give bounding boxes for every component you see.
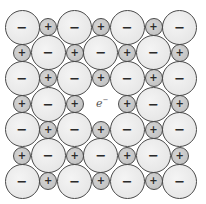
plus-sign: + (123, 48, 131, 58)
plus-sign: + (18, 99, 26, 109)
minus-sign: − (69, 123, 80, 136)
minus-sign: − (43, 98, 54, 111)
minus-sign: − (69, 21, 80, 34)
anion-circle: − (57, 164, 92, 199)
plus-sign: + (97, 73, 105, 83)
anion-circle: − (5, 164, 40, 199)
minus-sign: − (174, 123, 185, 136)
electron-label: e− (96, 96, 108, 110)
plus-sign: + (123, 99, 131, 109)
minus-sign: − (174, 72, 185, 85)
anion-circle: − (162, 112, 197, 147)
cation-circle: + (66, 44, 84, 62)
cation-circle: + (13, 95, 31, 113)
minus-sign: − (17, 123, 28, 136)
plus-sign: + (70, 99, 78, 109)
plus-sign: + (176, 48, 184, 58)
anion-circle: − (31, 35, 66, 70)
plus-sign: + (44, 73, 52, 83)
anion-circle: − (136, 138, 171, 173)
plus-sign: + (70, 48, 78, 58)
cation-circle: + (66, 147, 84, 165)
plus-sign: + (18, 48, 26, 58)
plus-sign: + (149, 125, 157, 135)
anion-circle: − (57, 112, 92, 147)
cation-circle: + (13, 44, 31, 62)
minus-sign: − (69, 72, 80, 85)
anion-circle: − (110, 10, 145, 45)
minus-sign: − (95, 149, 106, 162)
anion-circle: − (57, 10, 92, 45)
cation-circle: + (39, 121, 57, 139)
cation-circle: + (92, 18, 110, 36)
minus-sign: − (43, 149, 54, 162)
cation-circle: + (39, 18, 57, 36)
anion-circle: − (31, 138, 66, 173)
cation-circle: + (92, 69, 110, 87)
plus-sign: + (18, 151, 26, 161)
electron-charge: − (102, 96, 108, 104)
anion-circle: − (5, 112, 40, 147)
plus-sign: + (70, 151, 78, 161)
anion-circle: − (31, 87, 66, 122)
minus-sign: − (17, 175, 28, 188)
anion-circle: − (5, 10, 40, 45)
cation-circle: + (118, 95, 136, 113)
plus-sign: + (123, 151, 131, 161)
minus-sign: − (95, 46, 106, 59)
cation-circle: + (145, 172, 163, 190)
minus-sign: − (43, 46, 54, 59)
plus-sign: + (149, 73, 157, 83)
minus-sign: − (17, 21, 28, 34)
minus-sign: − (174, 21, 185, 34)
minus-sign: − (148, 46, 159, 59)
cation-circle: + (118, 44, 136, 62)
plus-sign: + (149, 22, 157, 32)
anion-circle: − (110, 112, 145, 147)
anion-circle: − (136, 87, 171, 122)
anion-circle: − (110, 61, 145, 96)
anion-circle: − (110, 164, 145, 199)
cation-circle: + (39, 172, 57, 190)
cation-circle: + (13, 147, 31, 165)
cation-circle: + (66, 95, 84, 113)
plus-sign: + (176, 151, 184, 161)
cation-circle: + (145, 18, 163, 36)
cation-circle: + (92, 172, 110, 190)
cation-circle: + (171, 44, 189, 62)
plus-sign: + (44, 22, 52, 32)
plus-sign: + (97, 22, 105, 32)
anion-circle: − (162, 164, 197, 199)
cation-circle: + (145, 69, 163, 87)
anion-circle: − (83, 35, 118, 70)
plus-sign: + (176, 99, 184, 109)
minus-sign: − (122, 175, 133, 188)
anion-circle: − (162, 61, 197, 96)
minus-sign: − (17, 72, 28, 85)
minus-sign: − (148, 98, 159, 111)
plus-sign: + (149, 176, 157, 186)
cation-circle: + (39, 69, 57, 87)
cation-circle: + (118, 147, 136, 165)
minus-sign: − (122, 72, 133, 85)
crystal-lattice-diagram: −+−+−+−+−+−+−+−+−+−+−+−+e−+−+−+−+−+−+−+−… (0, 0, 206, 204)
anion-circle: − (136, 35, 171, 70)
minus-sign: − (122, 21, 133, 34)
anion-circle: − (5, 61, 40, 96)
plus-sign: + (44, 125, 52, 135)
anion-circle: − (162, 10, 197, 45)
anion-circle: − (83, 138, 118, 173)
plus-sign: + (44, 176, 52, 186)
plus-sign: + (97, 176, 105, 186)
plus-sign: + (97, 125, 105, 135)
cation-circle: + (92, 121, 110, 139)
minus-sign: − (69, 175, 80, 188)
cation-circle: + (145, 121, 163, 139)
minus-sign: − (122, 123, 133, 136)
cation-circle: + (171, 147, 189, 165)
minus-sign: − (148, 149, 159, 162)
anion-circle: − (57, 61, 92, 96)
minus-sign: − (174, 175, 185, 188)
cation-circle: + (171, 95, 189, 113)
